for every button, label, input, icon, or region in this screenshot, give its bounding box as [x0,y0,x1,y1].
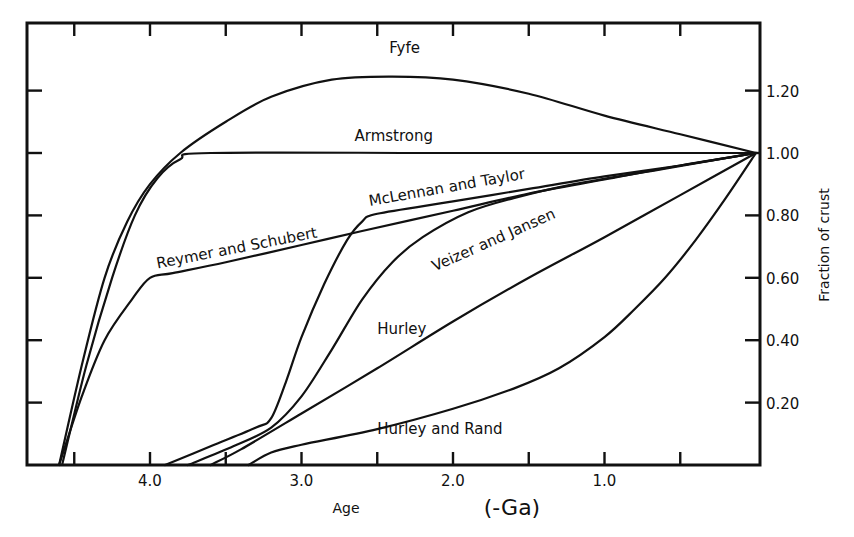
curve-label-armstrong: Armstrong [355,127,434,145]
plot-border [27,23,760,465]
x-tick-label: 1.0 [593,472,617,490]
curve-mclennan-and-taylor [165,153,756,465]
x-tick-label: 2.0 [441,472,465,490]
x-axis-title: Age [332,500,359,516]
curve-hurley [211,153,756,465]
x-tick-label: 3.0 [290,472,314,490]
y-tick-label: 0.20 [766,395,799,413]
y-axis-title: Fraction of crust [816,188,832,302]
y-tick-label: 0.60 [766,270,799,288]
curve-label-fyfe: Fyfe [389,39,420,57]
plot-frame [27,23,760,465]
curve-label-reymer-and-schubert: Reymer and Schubert [155,224,319,273]
y-tick-label: 1.20 [766,83,799,101]
curve-label-hurley: Hurley [377,320,426,338]
x-tick-label: 4.0 [138,472,162,490]
y-tick-label: 0.80 [766,207,799,225]
curve-label-veizer-and-jansen: Veizer and Jansen [429,205,558,276]
curve-label-hurley-and-rand: Hurley and Rand [377,420,502,438]
curve-labels-group: FyfeArmstrongReymer and SchubertMcLennan… [155,39,558,438]
y-tick-label: 1.00 [766,145,799,163]
x-axis-unit: (-Ga) [484,495,540,520]
y-tick-label: 0.40 [766,332,799,350]
crust-growth-chart: 4.03.02.01.0 0.200.400.600.801.001.20 Fy… [0,0,854,537]
